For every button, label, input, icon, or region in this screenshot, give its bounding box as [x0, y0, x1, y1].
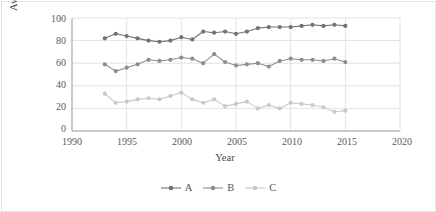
- data-point: [267, 25, 271, 29]
- data-point: [146, 96, 150, 100]
- data-point: [245, 62, 249, 66]
- data-point: [125, 66, 129, 70]
- data-point: [146, 39, 150, 43]
- data-point: [103, 92, 107, 96]
- data-point: [201, 29, 205, 33]
- data-point: [125, 34, 129, 38]
- data-point: [278, 59, 282, 63]
- data-point: [190, 37, 194, 41]
- data-point: [267, 64, 271, 68]
- series-b: [103, 52, 348, 73]
- data-point: [114, 32, 118, 36]
- data-point: [267, 103, 271, 107]
- data-point: [343, 60, 347, 64]
- data-point: [234, 32, 238, 36]
- data-point: [136, 36, 140, 40]
- chart-legend: ABC: [0, 182, 436, 193]
- data-point: [310, 103, 314, 107]
- series-line: [105, 93, 346, 112]
- data-point: [201, 61, 205, 65]
- data-point: [146, 58, 150, 62]
- data-point: [234, 63, 238, 67]
- data-point: [201, 101, 205, 105]
- legend-marker-icon: [244, 183, 266, 193]
- data-point: [103, 36, 107, 40]
- legend-item-label: A: [185, 182, 193, 193]
- series-c: [103, 90, 348, 113]
- data-point: [310, 23, 314, 27]
- legend-item-label: B: [227, 182, 234, 193]
- data-point: [168, 94, 172, 98]
- data-point: [332, 57, 336, 61]
- data-point: [223, 29, 227, 33]
- data-point: [223, 60, 227, 64]
- data-point: [157, 59, 161, 63]
- data-point: [234, 102, 238, 106]
- data-point: [157, 97, 161, 101]
- data-point: [300, 58, 304, 62]
- data-point: [245, 29, 249, 33]
- series-layer: [103, 23, 348, 114]
- data-point: [332, 110, 336, 114]
- data-point: [125, 100, 129, 104]
- data-point: [332, 23, 336, 27]
- data-point: [256, 26, 260, 30]
- legend-item-a[interactable]: A: [160, 182, 193, 193]
- data-point: [179, 35, 183, 39]
- data-point: [310, 58, 314, 62]
- data-point: [245, 100, 249, 104]
- data-point: [321, 105, 325, 109]
- data-point: [256, 61, 260, 65]
- data-point: [157, 40, 161, 44]
- data-point: [190, 57, 194, 61]
- data-point: [190, 97, 194, 101]
- data-point: [278, 25, 282, 29]
- data-point: [343, 24, 347, 28]
- data-point: [321, 59, 325, 63]
- data-point: [256, 106, 260, 110]
- legend-item-b[interactable]: B: [202, 182, 234, 193]
- data-point: [212, 52, 216, 56]
- legend-marker-icon: [160, 183, 182, 193]
- data-point: [278, 106, 282, 110]
- data-point: [136, 62, 140, 66]
- data-point: [223, 104, 227, 108]
- data-point: [103, 62, 107, 66]
- data-point: [212, 97, 216, 101]
- data-point: [289, 101, 293, 105]
- data-point: [168, 39, 172, 43]
- data-point: [343, 109, 347, 113]
- data-point: [114, 101, 118, 105]
- data-point: [289, 57, 293, 61]
- data-point: [179, 90, 183, 94]
- data-point: [300, 24, 304, 28]
- data-point: [300, 102, 304, 106]
- data-point: [212, 31, 216, 35]
- data-point: [136, 97, 140, 101]
- chart-figure: Average approval ratings per response, %…: [0, 0, 436, 212]
- plot-area: [0, 0, 436, 212]
- data-point: [321, 24, 325, 28]
- legend-marker-icon: [202, 183, 224, 193]
- data-point: [179, 55, 183, 59]
- data-point: [114, 69, 118, 73]
- data-point: [289, 25, 293, 29]
- legend-item-c[interactable]: C: [244, 182, 276, 193]
- data-point: [168, 58, 172, 62]
- legend-item-label: C: [269, 182, 276, 193]
